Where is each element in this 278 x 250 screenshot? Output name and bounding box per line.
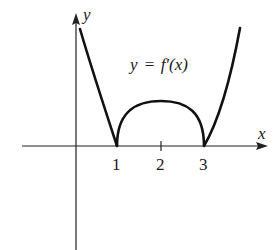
curve-label-y: y [128,55,138,74]
curve-right-branch [204,28,240,146]
x-axis-label: x [257,124,266,143]
tick-label-2: 2 [156,155,165,174]
derivative-graph: y x 1 2 3 y = f′(x) [0,0,278,250]
curve-arch [117,101,204,146]
curve-left-branch [80,29,117,146]
curve-label: y = f′(x) [128,55,188,74]
y-axis-label: y [81,5,91,24]
curve-label-fprime: f′(x) [161,55,189,74]
tick-label-3: 3 [199,155,208,174]
chart-container: y x 1 2 3 y = f′(x) [0,0,278,250]
tick-label-1: 1 [112,155,121,174]
curve-label-eq: = [145,55,155,74]
